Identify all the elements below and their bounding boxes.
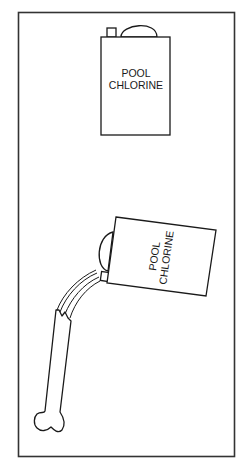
bone <box>34 310 71 432</box>
can-label-line2: CHLORINE <box>109 79 163 91</box>
can-spout <box>107 28 116 37</box>
bone-shaft <box>34 310 71 432</box>
upright-chlorine-can: POOL CHLORINE <box>101 26 170 135</box>
can-handle <box>121 26 157 37</box>
chlorine-stream <box>57 270 100 318</box>
figure: POOL CHLORINE POOL CHLORINE <box>0 0 248 466</box>
illustration: POOL CHLORINE POOL CHLORINE <box>0 0 248 466</box>
can-label-line1: POOL <box>121 67 150 79</box>
tilted-chlorine-can: POOL CHLORINE <box>99 217 216 296</box>
